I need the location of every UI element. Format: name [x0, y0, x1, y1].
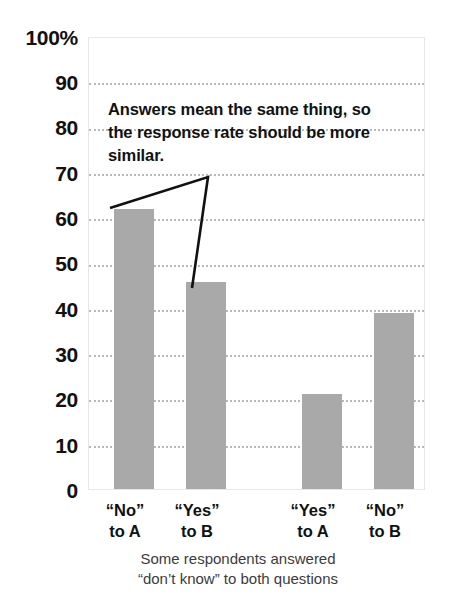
x-axis-label-no-to-b: “No” to B [353, 500, 417, 542]
x-axis-label-line1: “No” [353, 500, 417, 521]
x-axis-label-line1: “Yes” [279, 500, 347, 521]
bar-yes-to-b [186, 282, 226, 489]
y-axis-label-0: 0 [0, 480, 78, 501]
x-axis-label-line1: “No” [93, 500, 157, 521]
x-axis-label-line2: to A [93, 521, 157, 542]
x-axis-label-line2: to B [163, 521, 231, 542]
x-axis-label-yes-to-b: “Yes” to B [163, 500, 231, 542]
y-axis-label-90: 90 [0, 72, 78, 93]
y-axis-label-60: 60 [0, 208, 78, 229]
annotation-line-1: Answers mean the same [108, 100, 299, 118]
y-axis-label-40: 40 [0, 299, 78, 320]
x-axis-label-line2: to B [353, 521, 417, 542]
bar-no-to-a [114, 209, 154, 489]
y-axis-label-20: 20 [0, 389, 78, 410]
bar-yes-to-a [302, 394, 342, 489]
bar-no-to-b [374, 313, 414, 489]
footnote-line-1: Some respondents answered [0, 549, 476, 569]
y-axis-label-100: 100% [0, 27, 78, 48]
x-axis-label-line2: to A [279, 521, 347, 542]
footnote-line-2: “don’t know” to both questions [0, 569, 476, 589]
y-axis-label-30: 30 [0, 344, 78, 365]
y-axis-label-70: 70 [0, 163, 78, 184]
gridline-70 [89, 174, 424, 176]
chart-footnote: Some respondents answered “don’t know” t… [0, 549, 476, 589]
x-axis-label-line1: “Yes” [163, 500, 231, 521]
y-axis-label-10: 10 [0, 435, 78, 456]
annotation-callout: Answers mean the same thing, so the resp… [108, 98, 376, 166]
gridline-90 [89, 83, 424, 85]
y-axis-label-80: 80 [0, 117, 78, 138]
x-axis-label-yes-to-a: “Yes” to A [279, 500, 347, 542]
bar-chart: 100% 90 80 70 60 50 40 30 20 10 0 Answer… [0, 0, 476, 594]
x-axis-label-no-to-a: “No” to A [93, 500, 157, 542]
y-axis-label-50: 50 [0, 253, 78, 274]
